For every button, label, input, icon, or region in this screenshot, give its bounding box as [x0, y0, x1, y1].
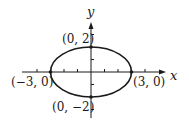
label-bottom: (0, −2)	[52, 100, 94, 114]
ellipse-graph: y x (0, 2) (−3, 0) (3, 0) (0, −2)	[0, 0, 189, 122]
label-right: (3, 0)	[133, 75, 165, 89]
x-axis-label: x	[170, 68, 178, 83]
y-axis-label: y	[86, 4, 95, 19]
point-bottom	[89, 95, 93, 99]
label-left: (−3, 0)	[11, 75, 53, 89]
label-top: (0, 2)	[62, 32, 94, 46]
point-left	[49, 70, 53, 74]
point-right	[130, 70, 134, 74]
x-axis-arrow-icon	[159, 70, 166, 75]
y-axis-arrow-icon	[89, 22, 94, 29]
